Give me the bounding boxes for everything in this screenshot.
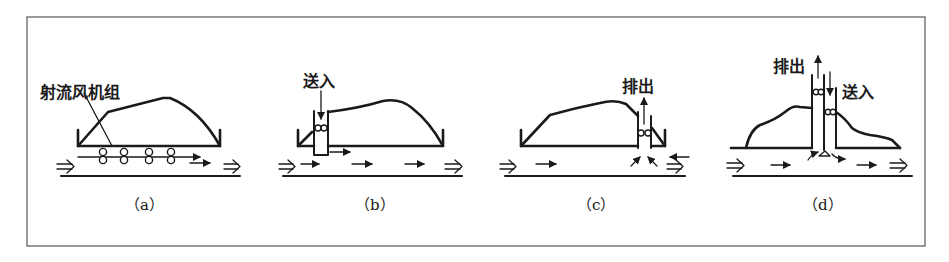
label-exhaust: 排出 — [622, 77, 654, 96]
fan-icon — [167, 148, 174, 155]
mountain-outline — [328, 100, 443, 146]
fan-icon — [315, 125, 321, 131]
double-arrow-icon — [445, 160, 462, 173]
inflow-arrow — [631, 157, 640, 166]
fan-icon — [120, 148, 127, 155]
outflow-arrow — [832, 154, 845, 159]
panel-c: 排出 （c） — [500, 77, 689, 214]
fan-icon — [818, 89, 824, 95]
double-arrow-icon — [667, 160, 683, 173]
double-arrow-icon — [279, 160, 295, 173]
double-arrow-icon — [57, 160, 74, 173]
caption-a: （a） — [125, 196, 164, 214]
caption-c: （c） — [577, 196, 615, 214]
ventilation-diagram: 射流风机组 （a） — [0, 0, 949, 262]
label-exhaust: 排出 — [773, 57, 805, 76]
fan-icon — [145, 156, 152, 163]
fan-icon — [167, 156, 174, 163]
mountain-outline-left — [746, 107, 812, 148]
tunnel-body — [521, 130, 638, 146]
caption-b: （b） — [355, 196, 395, 214]
fan-icon — [830, 109, 836, 115]
double-arrow-icon — [224, 160, 240, 173]
caption-d: （d） — [803, 196, 843, 214]
label-supply: 送入 — [841, 83, 874, 102]
tunnel-body — [328, 130, 443, 146]
double-arrow-icon — [500, 160, 516, 173]
label-supply: 送入 — [302, 72, 335, 91]
mountain-outline-right — [836, 112, 900, 148]
inflow-arrow — [808, 152, 818, 160]
fan-icon — [321, 125, 327, 131]
fan-icon — [145, 148, 152, 155]
fan-icon — [645, 130, 651, 136]
fan-icon — [638, 130, 644, 136]
double-arrow-icon — [890, 159, 907, 172]
panel-a: 射流风机组 （a） — [39, 83, 240, 214]
panel-d: 排出 送入 （d） — [727, 56, 912, 214]
panel-b: 送入 （b） — [279, 72, 462, 214]
partition-base — [819, 151, 830, 156]
fan-icon — [99, 156, 106, 163]
jet-fan-group — [99, 148, 174, 163]
fan-icon — [120, 156, 127, 163]
label-jet-fan-group: 射流风机组 — [39, 83, 120, 102]
tunnel-body — [78, 130, 220, 146]
mountain-outline — [521, 101, 638, 146]
fan-icon — [99, 148, 106, 155]
inflow-arrow — [648, 157, 657, 166]
mountain-outline — [298, 132, 312, 146]
mountain-outline — [652, 128, 665, 146]
double-arrow-icon — [727, 159, 744, 172]
